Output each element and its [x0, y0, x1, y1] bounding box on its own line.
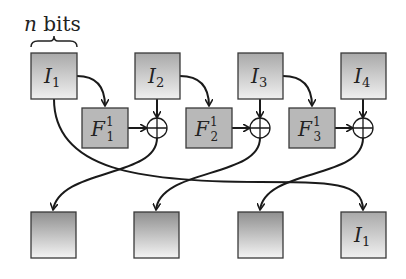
feistel-diagram: n bits I1 I2 I3 I4 F	[0, 0, 406, 279]
top-block-i4: I4	[341, 53, 386, 99]
xor-icon-1	[147, 118, 167, 138]
round-function-f2: F12	[186, 108, 232, 148]
xor-icon-3	[353, 118, 373, 138]
top-block-i1: I1	[31, 53, 77, 99]
svg-text:F11: F11	[90, 115, 114, 144]
bottom-block-1	[31, 212, 76, 258]
svg-text:F12: F12	[194, 115, 218, 144]
top-block-i3: I3	[238, 53, 283, 99]
bottom-block-3	[238, 212, 283, 258]
svg-text:F13: F13	[297, 115, 321, 144]
round-function-f1: F11	[82, 108, 128, 148]
bottom-block-2	[134, 212, 179, 258]
n-bits-label: n bits	[24, 12, 81, 36]
n-bits-brace	[31, 36, 77, 47]
top-block-i2: I2	[135, 53, 180, 99]
bottom-block-i1: I1	[341, 212, 386, 258]
round-function-f3: F13	[289, 108, 335, 148]
xor-icon-2	[250, 118, 270, 138]
